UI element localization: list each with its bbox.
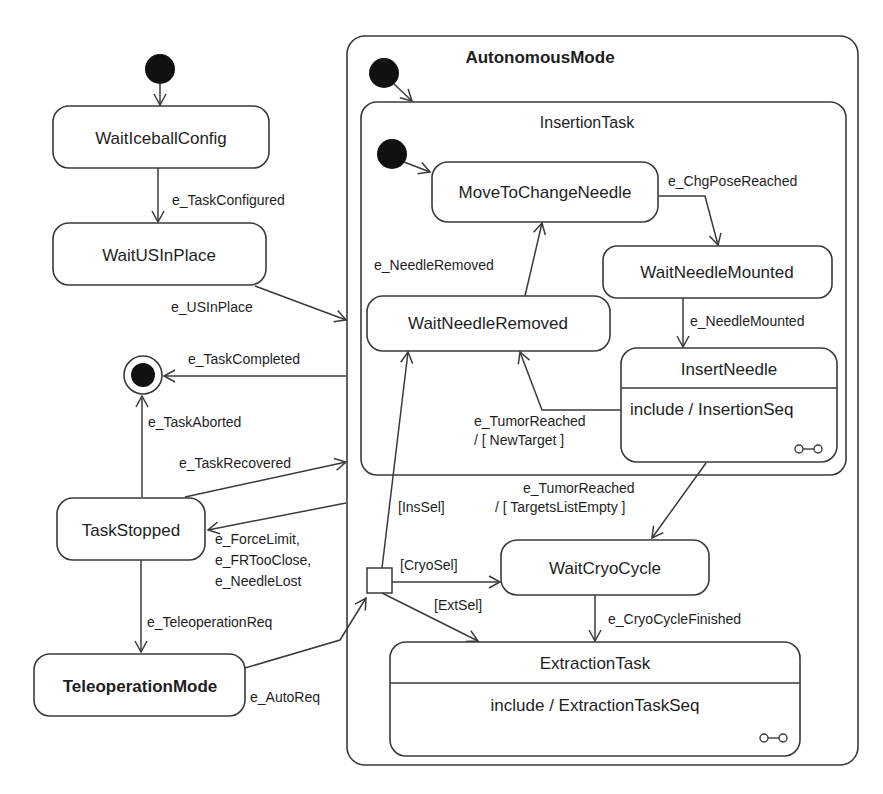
initial-state-top-level xyxy=(145,54,175,84)
state-label: TaskStopped xyxy=(82,521,180,540)
edge-label-task-configured: e_TaskConfigured xyxy=(172,192,285,208)
edge-ins-sel xyxy=(382,352,408,568)
state-activity: include / ExtractionTaskSeq xyxy=(491,696,700,715)
edge-label-needle-removed: e_NeedleRemoved xyxy=(374,257,494,273)
state-label: WaitUSInPlace xyxy=(102,246,216,265)
state-machine-diagram: WaitIceballConfig e_TaskConfigured WaitU… xyxy=(0,0,883,794)
state-label: MoveToChangeNeedle xyxy=(459,183,632,202)
edge-label-cryo-sel: [CryoSel] xyxy=(400,557,458,573)
state-wait-us-in-place[interactable]: WaitUSInPlace xyxy=(53,223,266,285)
edge-label-needle-lost: e_NeedleLost xyxy=(215,573,302,589)
edge-label-task-recovered: e_TaskRecovered xyxy=(179,455,291,471)
edge-label-targets-list-empty: / [ TargetsListEmpty ] xyxy=(495,499,625,515)
edge-label-needle-mounted: e_NeedleMounted xyxy=(690,313,804,329)
state-wait-iceball-config[interactable]: WaitIceballConfig xyxy=(53,106,269,168)
state-wait-needle-mounted[interactable]: WaitNeedleMounted xyxy=(603,246,832,298)
state-insert-needle[interactable]: InsertNeedle include / InsertionSeq xyxy=(621,348,837,462)
edge-chg-pose-reached xyxy=(658,196,718,245)
state-label: WaitNeedleRemoved xyxy=(408,314,568,333)
initial-state-insertion xyxy=(377,139,407,169)
edge-tumor-reached-new-target xyxy=(520,352,621,410)
edge-needle-removed xyxy=(525,223,542,296)
state-label: WaitIceballConfig xyxy=(95,129,227,148)
state-label: TeleoperationMode xyxy=(63,677,218,696)
state-move-to-change-needle[interactable]: MoveToChangeNeedle xyxy=(432,162,658,222)
composite-title: InsertionTask xyxy=(540,114,635,131)
choice-junction[interactable] xyxy=(367,568,392,593)
edge-auto-req xyxy=(245,598,366,668)
state-label: InsertNeedle xyxy=(681,360,777,379)
edge-initial-to-move xyxy=(404,162,430,172)
edge-label-cryo-cycle-finished: e_CryoCycleFinished xyxy=(608,611,741,627)
edge-label-fr-too-close: e_FRTooClose, xyxy=(215,552,311,568)
edge-label-us-in-place: e_USInPlace xyxy=(171,299,253,315)
edge-stop-events xyxy=(208,503,346,530)
state-wait-needle-removed[interactable]: WaitNeedleRemoved xyxy=(367,296,610,351)
state-teleoperation-mode[interactable]: TeleoperationMode xyxy=(34,654,245,716)
state-label: ExtractionTask xyxy=(540,654,651,673)
edge-label-tumor-reached-2: e_TumorReached xyxy=(523,480,635,496)
edge-label-task-aborted: e_TaskAborted xyxy=(148,414,241,430)
edge-initial-to-insertion-task xyxy=(394,84,412,101)
edge-label-force-limit: e_ForceLimit, xyxy=(215,531,300,547)
edge-label-new-target: / [ NewTarget ] xyxy=(474,432,564,448)
state-task-stopped[interactable]: TaskStopped xyxy=(57,498,205,560)
state-label: WaitCryoCycle xyxy=(549,559,661,578)
edge-label-tumor-reached-1: e_TumorReached xyxy=(474,413,586,429)
state-label: WaitNeedleMounted xyxy=(640,263,793,282)
state-wait-cryo-cycle[interactable]: WaitCryoCycle xyxy=(501,540,709,595)
state-activity: include / InsertionSeq xyxy=(630,400,794,419)
edge-label-auto-req: e_AutoReq xyxy=(250,689,320,705)
edge-label-ext-sel: [ExtSel] xyxy=(434,597,482,613)
edge-us-in-place xyxy=(255,286,346,320)
edge-label-teleoperation-req: e_TeleoperationReq xyxy=(147,614,272,630)
edge-label-chg-pose-reached: e_ChgPoseReached xyxy=(668,173,797,189)
composite-title: AutonomousMode xyxy=(465,48,614,67)
edge-label-ins-sel: [InsSel] xyxy=(398,499,445,515)
edge-label-task-completed: e_TaskCompleted xyxy=(188,351,300,367)
final-state xyxy=(124,356,162,394)
state-extraction-task[interactable]: ExtractionTask include / ExtractionTaskS… xyxy=(390,642,800,756)
